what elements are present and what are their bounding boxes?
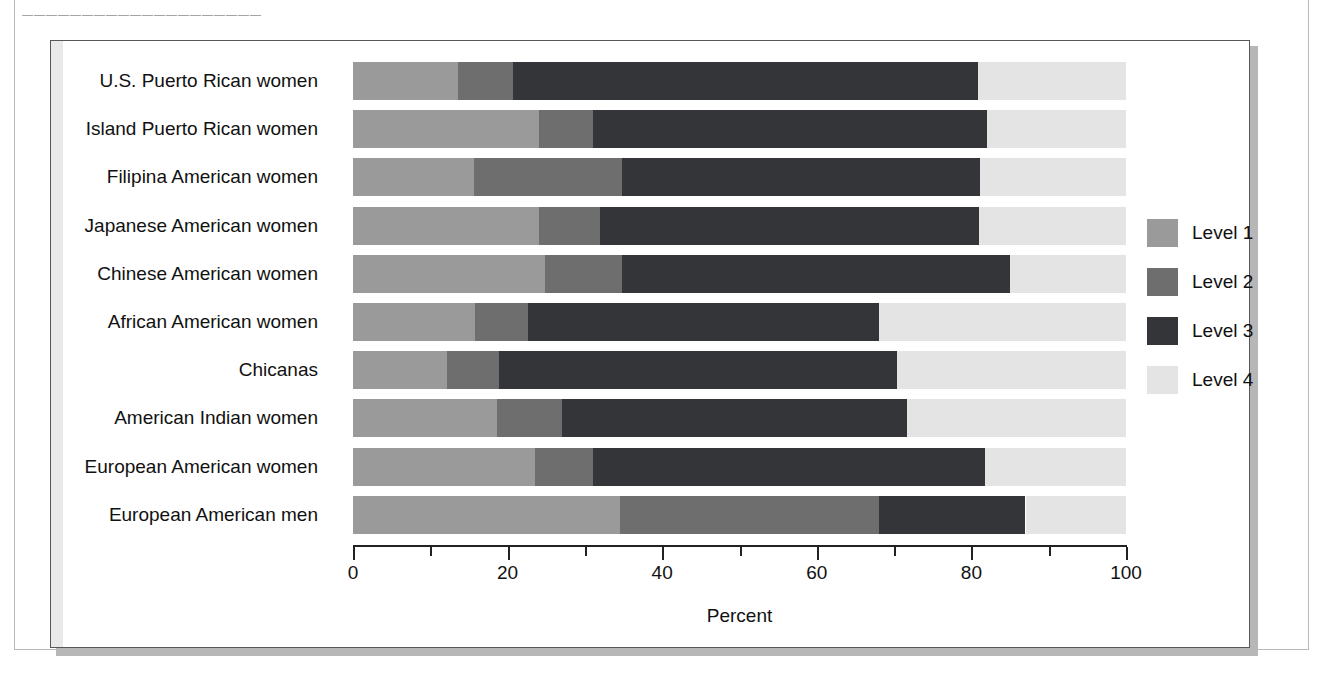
bar-segment [353, 303, 475, 341]
x-axis-tick-label: 60 [806, 562, 827, 584]
bar-segment [353, 255, 545, 293]
category-label: European American women [85, 448, 318, 486]
bar-segment [535, 448, 593, 486]
x-axis-minor-tick [585, 547, 587, 556]
bar-segment [499, 351, 897, 389]
bar-segment [513, 62, 978, 100]
x-axis-tick-label: 20 [497, 562, 518, 584]
bar-segment [897, 351, 1126, 389]
x-axis-major-tick [508, 547, 510, 560]
bar-segment [353, 158, 474, 196]
x-axis-minor-tick [740, 547, 742, 556]
category-label: Japanese American women [85, 207, 318, 245]
legend-item[interactable]: Level 1 [1147, 208, 1253, 257]
bar-segment [475, 303, 528, 341]
legend-swatch-icon [1147, 268, 1178, 296]
bar-segment [474, 158, 622, 196]
bar-segment [353, 399, 497, 437]
category-label: Chicanas [239, 351, 318, 389]
bar-row [353, 62, 1126, 100]
legend-swatch-icon [1147, 317, 1178, 345]
legend-swatch-icon [1147, 366, 1178, 394]
legend-label: Level 3 [1192, 320, 1253, 342]
x-axis-tick-label: 80 [961, 562, 982, 584]
bar-segment [458, 62, 513, 100]
bar-segment [539, 207, 601, 245]
bar-segment [353, 496, 620, 534]
bar-segment [622, 158, 980, 196]
bar-segment [497, 399, 562, 437]
bar-segment [1010, 255, 1126, 293]
category-label: U.S. Puerto Rican women [99, 62, 318, 100]
bar-segment [353, 351, 447, 389]
bar-segment [593, 110, 987, 148]
bar-segment [539, 110, 593, 148]
x-axis-tick-label: 0 [348, 562, 359, 584]
bar-segment [907, 399, 1126, 437]
bar-row [353, 496, 1126, 534]
bar-segment [353, 110, 539, 148]
bar-row [353, 255, 1126, 293]
bar-segment [1026, 496, 1126, 534]
legend-label: Level 4 [1192, 369, 1253, 391]
bar-segment [987, 110, 1126, 148]
bar-row [353, 448, 1126, 486]
category-label: European American men [109, 496, 318, 534]
category-label: Filipina American women [107, 158, 318, 196]
x-axis-tick-label: 40 [652, 562, 673, 584]
bar-row [353, 207, 1126, 245]
legend-item[interactable]: Level 4 [1147, 355, 1253, 404]
x-axis-major-tick [1126, 547, 1128, 560]
legend-swatch-icon [1147, 219, 1178, 247]
category-label: Chinese American women [97, 255, 318, 293]
bar-row [353, 399, 1126, 437]
bar-segment [622, 255, 1010, 293]
x-axis-major-tick [662, 547, 664, 560]
bar-segment [353, 62, 458, 100]
category-label: American Indian women [114, 399, 318, 437]
bar-row [353, 158, 1126, 196]
stacked-bar-chart: 020406080100 Percent Level 1Level 2Level… [0, 0, 1323, 700]
bar-segment [562, 399, 908, 437]
x-axis-minor-tick [894, 547, 896, 556]
x-axis-title: Percent [353, 605, 1126, 627]
chart-legend: Level 1Level 2Level 3Level 4 [1147, 208, 1253, 404]
legend-item[interactable]: Level 3 [1147, 306, 1253, 355]
x-axis-minor-tick [430, 547, 432, 556]
bar-segment [620, 496, 879, 534]
bar-segment [879, 303, 1126, 341]
bar-row [353, 351, 1126, 389]
bar-segment [879, 496, 1026, 534]
bar-segment [985, 448, 1126, 486]
plot-area [353, 62, 1126, 544]
x-axis-minor-tick [1049, 547, 1051, 556]
x-axis-major-tick [817, 547, 819, 560]
x-axis-tick-label: 100 [1110, 562, 1142, 584]
legend-item[interactable]: Level 2 [1147, 257, 1253, 306]
bar-segment [353, 207, 539, 245]
bar-segment [593, 448, 985, 486]
bar-segment [600, 207, 979, 245]
category-label: African American women [108, 303, 318, 341]
bar-row [353, 303, 1126, 341]
x-axis-major-tick [353, 547, 355, 560]
category-label: Island Puerto Rican women [86, 110, 318, 148]
bar-segment [980, 158, 1126, 196]
bar-segment [528, 303, 880, 341]
bar-segment [979, 207, 1126, 245]
bar-segment [353, 448, 535, 486]
legend-label: Level 1 [1192, 222, 1253, 244]
bar-segment [447, 351, 499, 389]
bar-segment [978, 62, 1126, 100]
legend-label: Level 2 [1192, 271, 1253, 293]
x-axis-major-tick [971, 547, 973, 560]
bar-segment [545, 255, 622, 293]
bar-row [353, 110, 1126, 148]
